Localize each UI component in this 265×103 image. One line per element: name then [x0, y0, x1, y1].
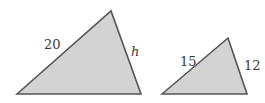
large-triangle-right-side-label: h	[131, 45, 139, 58]
small-triangle	[162, 38, 247, 94]
small-triangle-right-side-label: 12	[244, 59, 261, 72]
large-triangle	[17, 11, 141, 94]
small-triangle-left-side-label: 15	[180, 55, 197, 68]
similar-triangles-diagram: 20 h 15 12	[0, 0, 265, 103]
large-triangle-left-side-label: 20	[44, 38, 61, 51]
